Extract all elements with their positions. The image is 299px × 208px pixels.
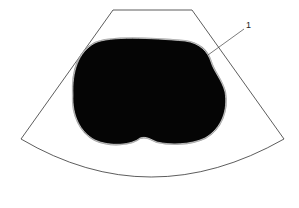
callout-label-1: 1	[246, 21, 251, 30]
diagram-canvas	[0, 0, 299, 208]
lesion-mass	[73, 38, 226, 144]
